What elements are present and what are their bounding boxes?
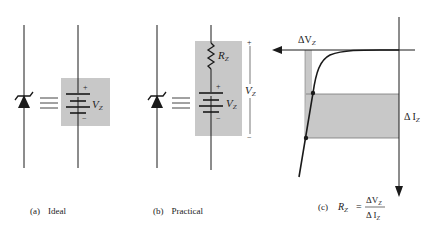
- voltage-bracket: + − VZ: [244, 38, 258, 142]
- arrow-down-icon: [395, 186, 403, 197]
- panel-c-characteristic: ΔVZ Δ IZ (c) RZ = ΔVZ Δ IZ: [272, 17, 420, 221]
- svg-text:RZ: RZ: [337, 201, 348, 214]
- caption-b: (b)Practical: [153, 206, 203, 216]
- equivalence-icon: [172, 98, 190, 108]
- svg-text:(c): (c): [318, 202, 328, 212]
- minus-sign: −: [82, 114, 87, 123]
- operating-point-dot: [311, 91, 315, 95]
- plus-sign: +: [83, 83, 88, 92]
- delta-i-label: Δ IZ: [404, 111, 420, 124]
- caption-a: (a)Ideal: [30, 206, 66, 216]
- zener-diode-icon: [148, 25, 166, 168]
- svg-text:ΔVZ: ΔVZ: [366, 195, 382, 206]
- svg-text:−: −: [247, 133, 252, 142]
- zener-diode-icon: [15, 25, 33, 168]
- plus-sign: +: [216, 82, 221, 91]
- zener-equivalent-circuits-figure: + − VZ (a)Ideal RZ + − VZ: [0, 0, 435, 233]
- caption-c-formula: (c) RZ = ΔVZ Δ IZ: [318, 195, 385, 221]
- panel-a-ideal: + − VZ (a)Ideal: [15, 25, 110, 216]
- operating-point-dot: [304, 136, 308, 140]
- delta-v-label: ΔVZ: [298, 34, 316, 47]
- panel-b-practical: RZ + − VZ + − VZ (b)Practical: [148, 25, 258, 216]
- svg-text:=: =: [356, 201, 362, 212]
- minus-sign: −: [216, 114, 221, 123]
- svg-text:Δ IZ: Δ IZ: [366, 210, 381, 221]
- arrow-left-icon: [272, 46, 282, 54]
- svg-text:+: +: [247, 38, 252, 47]
- equivalence-icon: [40, 98, 58, 108]
- delta-i-region: [306, 94, 399, 138]
